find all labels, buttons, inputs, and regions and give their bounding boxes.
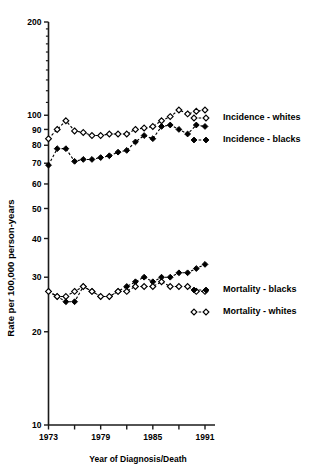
x-axis-tick-label: 1985 [143,432,162,442]
chart-figure: 200100908070605040302010 197319791985199… [0,0,316,473]
y-axis-tick-label: 40 [32,234,42,244]
x-axis-tick-label: 1991 [196,432,215,442]
legend-label: Incidence - blacks [223,134,301,144]
legend-label: Mortality - whites [223,306,297,316]
y-axis-tick-label: 100 [27,110,41,120]
y-axis-tick-label: 30 [32,272,42,282]
x-axis-title: Year of Diagnosis/Death [89,454,186,464]
y-axis-tick-label: 80 [32,140,42,150]
y-axis-tick-label: 60 [32,179,42,189]
y-axis-tick-label: 90 [32,125,42,135]
y-axis-tick-label: 50 [32,204,42,214]
y-axis-tick-label: 200 [27,17,41,27]
y-axis-tick-label: 70 [32,158,42,168]
rate-trend-line-chart: 200100908070605040302010 197319791985199… [0,0,316,473]
x-axis-tick-label: 1973 [39,432,58,442]
legend-label: Incidence - whites [223,112,301,122]
y-axis-tick-label: 20 [32,327,42,337]
chart-background [0,0,316,473]
y-axis-title: Rate per 100,000 person-years [5,199,16,336]
x-axis-tick-label: 1979 [91,432,110,442]
y-axis-tick-label: 10 [32,420,42,430]
legend-label: Mortality - blacks [223,284,297,294]
